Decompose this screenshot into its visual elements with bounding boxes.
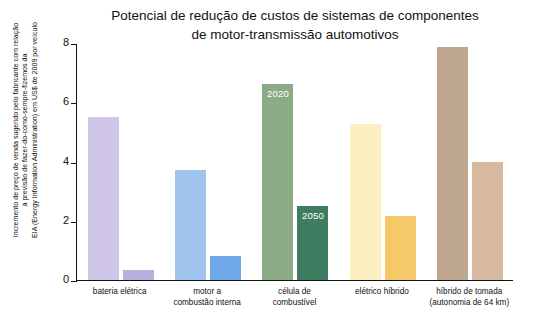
y-tick-label: 4 [53, 155, 69, 167]
chart-root: Potencial de redução de custos de sistem… [0, 0, 536, 332]
chart-title: Potencial de redução de custos de sistem… [60, 6, 530, 44]
category-label-line: (autonomia de 64 km) [414, 298, 525, 309]
bar [88, 117, 119, 280]
y-tick [71, 163, 77, 164]
bar [350, 124, 381, 280]
y-axis-label-line2: à previsão de fazer-do-como-sempre-fizem… [21, 5, 30, 255]
category-label-line: híbrido de tomada [414, 287, 525, 298]
bar-value-label: 2020 [262, 88, 293, 99]
bar [210, 256, 241, 280]
bar [385, 216, 416, 280]
plot-area: 20202050 02468 [76, 44, 513, 281]
bars-layer: 20202050 [77, 44, 513, 280]
category-label-line: combustível [239, 298, 350, 309]
y-tick-label: 2 [53, 214, 69, 226]
bar-group [77, 44, 164, 280]
chart-title-line2: de motor-transmissão automotivos [60, 25, 530, 44]
y-tick [71, 281, 77, 282]
bar [175, 170, 206, 280]
bar [123, 270, 154, 280]
bar [472, 162, 503, 281]
bar-group [427, 44, 514, 280]
y-tick [71, 222, 77, 223]
y-tick [71, 103, 77, 104]
y-axis-label-line3: EIA (Energy Information Administration) … [31, 5, 40, 255]
bar: 2050 [297, 206, 328, 280]
y-tick-label: 8 [53, 36, 69, 48]
bar-group: 20202050 [252, 44, 339, 280]
chart-title-line1: Potencial de redução de custos de sistem… [111, 8, 479, 23]
bar-group [339, 44, 426, 280]
y-axis-label: Incremento de preço de venda sugerido pe… [12, 5, 40, 255]
y-tick-label: 6 [53, 95, 69, 107]
bar-value-label: 2050 [297, 210, 328, 221]
bar [437, 47, 468, 280]
y-tick-label: 0 [53, 273, 69, 285]
bar: 2020 [262, 84, 293, 280]
category-label: híbrido de tomada(autonomia de 64 km) [414, 287, 525, 308]
y-axis-label-line1: Incremento de preço de venda sugerido pe… [12, 5, 21, 255]
y-tick [71, 44, 77, 45]
bar-group [164, 44, 251, 280]
